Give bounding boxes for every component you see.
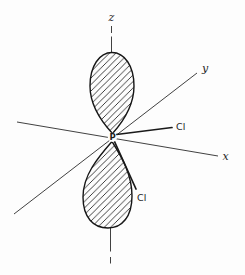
chlorine-upper-label: Cl	[176, 121, 185, 132]
orbital-lobe-upper	[90, 53, 134, 134]
orbital-lobe-lower	[83, 142, 132, 229]
z-axis-label: z	[108, 11, 115, 24]
chlorine-lower-label: Cl	[137, 192, 146, 203]
y-axis-label: y	[201, 62, 209, 75]
x-axis-label: x	[223, 150, 230, 163]
phosphorus-label: P	[109, 132, 115, 142]
orbital-diagram-canvas: z y x P Cl Cl	[0, 0, 245, 275]
orbital-diagram-figure: z y x P Cl Cl	[0, 0, 245, 275]
